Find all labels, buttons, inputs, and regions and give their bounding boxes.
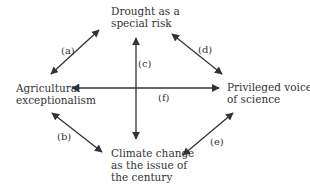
edge-a-label: (a) — [61, 45, 75, 56]
node-climate: Climate change as the issue of the centu… — [111, 147, 194, 183]
node-climate-line2: as the issue of — [111, 159, 194, 171]
node-agricultural-line2: exceptionalism — [16, 94, 96, 106]
node-climate-line3: the century — [111, 171, 194, 183]
edge-d-label: (d) — [198, 44, 212, 55]
edge-b-label: (b) — [57, 131, 71, 142]
node-agricultural: Agricultural exceptionalism — [16, 82, 96, 106]
node-climate-line1: Climate change — [111, 147, 194, 159]
node-science-line2: of science — [227, 93, 310, 105]
edge-d-arrow — [172, 34, 222, 74]
node-science-line1: Privileged voice — [227, 81, 310, 93]
edge-a-arrow — [51, 30, 99, 74]
edge-e-label: (e) — [210, 136, 224, 147]
node-science: Privileged voice of science — [227, 81, 310, 105]
node-drought-line2: special risk — [111, 17, 180, 29]
edge-c-label: (c) — [138, 58, 151, 69]
node-agricultural-line1: Agricultural — [16, 82, 96, 94]
edge-f-label: (f) — [158, 92, 170, 103]
node-drought: Drought as a special risk — [111, 5, 180, 29]
node-drought-line1: Drought as a — [111, 5, 180, 17]
